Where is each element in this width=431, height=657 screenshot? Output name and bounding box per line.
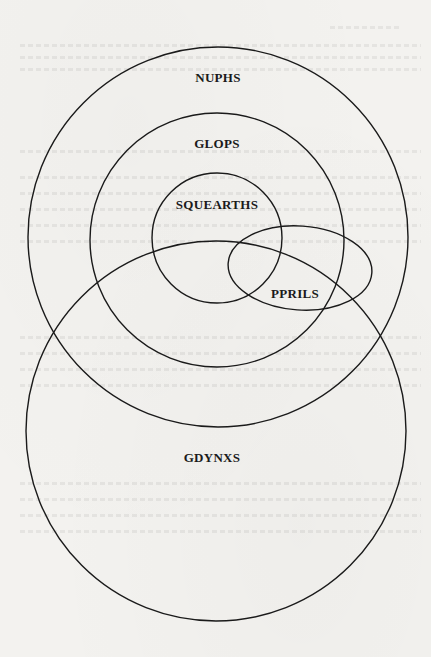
venn-diagram: NUPHS GLOPS SQUEARTHS PPRILS GDYNXS [0,0,431,657]
set-nuphs-label: NUPHS [195,70,241,85]
set-gdynxs-label: GDYNXS [184,450,241,465]
set-squearths-outline [152,173,282,303]
diagram-page: NUPHS GLOPS SQUEARTHS PPRILS GDYNXS [0,0,431,657]
set-squearths-label: SQUEARTHS [176,197,258,212]
set-glops-outline [90,113,344,367]
set-nuphs-outline [28,47,408,427]
set-pprils-label: PPRILS [271,286,319,301]
set-glops-label: GLOPS [194,136,240,151]
set-gdynxs-outline [26,241,406,621]
